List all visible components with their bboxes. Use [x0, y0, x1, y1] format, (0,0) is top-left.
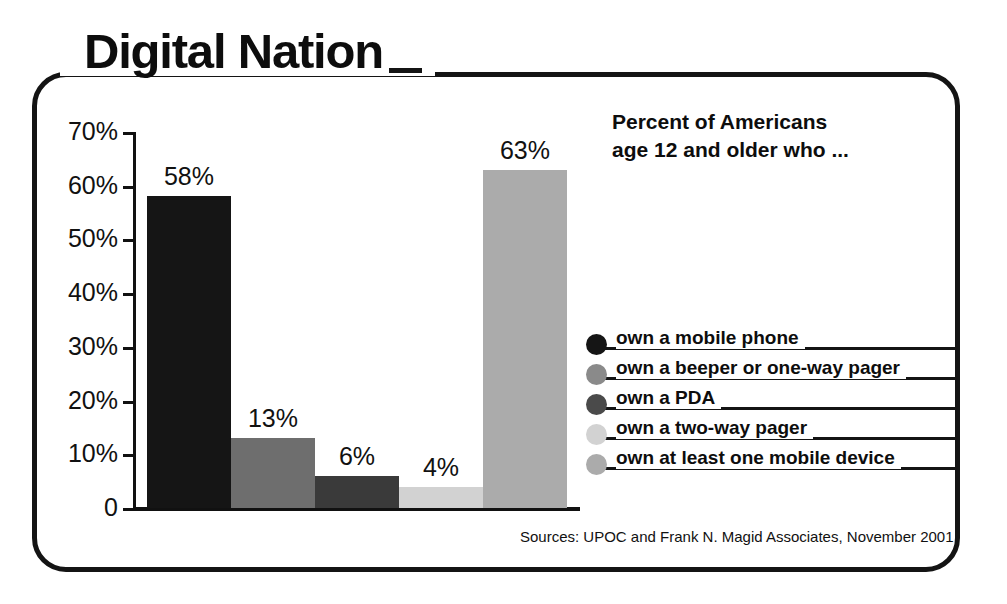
y-tick-mark: [123, 508, 133, 511]
bar-value-label: 4%: [399, 453, 483, 482]
bar-column[interactable]: 63%: [483, 132, 567, 508]
sources-note: Sources: UPOC and Frank N. Magid Associa…: [520, 528, 954, 545]
bar[interactable]: [483, 170, 567, 508]
bar[interactable]: [399, 487, 483, 508]
headline-line-1: Percent of Americans: [612, 108, 942, 136]
chart-legend: own a mobile phoneown a beeper or one-wa…: [586, 326, 956, 476]
bar[interactable]: [315, 476, 399, 508]
y-tick-mark: [123, 132, 133, 135]
page-title-wrap: Digital Nation: [84, 14, 389, 76]
bar-value-label: 13%: [231, 404, 315, 433]
y-tick-label: 50%: [68, 224, 118, 253]
bar-series: 58%13%6%4%63%: [147, 132, 567, 508]
y-tick-mark: [123, 401, 133, 404]
chart-page: Digital Nation Percent of Americans age …: [0, 0, 1007, 604]
bar-value-label: 63%: [483, 136, 567, 165]
legend-marker-icon: [586, 394, 607, 415]
legend-marker-icon: [586, 424, 607, 445]
y-tick-label: 10%: [68, 439, 118, 468]
chart-headline: Percent of Americans age 12 and older wh…: [612, 108, 942, 164]
legend-item[interactable]: own a PDA: [586, 386, 956, 416]
y-tick-label: 20%: [68, 385, 118, 414]
legend-item[interactable]: own a mobile phone: [586, 326, 956, 356]
bar-column[interactable]: 13%: [231, 132, 315, 508]
legend-item[interactable]: own a two-way pager: [586, 416, 956, 446]
y-tick-label: 70%: [68, 117, 118, 146]
legend-item[interactable]: own at least one mobile device: [586, 446, 956, 476]
legend-item[interactable]: own a beeper or one-way pager: [586, 356, 956, 386]
bar[interactable]: [147, 196, 231, 508]
legend-marker-icon: [586, 364, 607, 385]
legend-label: own at least one mobile device: [616, 446, 901, 469]
y-axis-line: [133, 132, 136, 508]
bar-column[interactable]: 6%: [315, 132, 399, 508]
y-tick-mark: [123, 347, 133, 350]
page-title: Digital Nation: [84, 27, 389, 76]
bar-column[interactable]: 58%: [147, 132, 231, 508]
bar[interactable]: [231, 438, 315, 508]
legend-marker-icon: [586, 454, 607, 475]
y-tick-label: 0: [104, 493, 118, 522]
bar-column[interactable]: 4%: [399, 132, 483, 508]
legend-marker-icon: [586, 334, 607, 355]
legend-label: own a two-way pager: [616, 416, 813, 439]
bar-value-label: 6%: [315, 442, 399, 471]
y-tick-mark: [123, 186, 133, 189]
legend-label: own a beeper or one-way pager: [616, 356, 906, 379]
y-tick-label: 60%: [68, 171, 118, 200]
plot-area: 70%60%50%40%30%20%10%0 58%13%6%4%63%: [133, 132, 577, 508]
y-tick-label: 40%: [68, 278, 118, 307]
headline-line-2: age 12 and older who ...: [612, 136, 942, 164]
y-tick-mark: [123, 454, 133, 457]
y-tick-label: 30%: [68, 332, 118, 361]
legend-label: own a PDA: [616, 386, 721, 409]
y-tick-mark: [123, 239, 133, 242]
legend-label: own a mobile phone: [616, 326, 805, 349]
bar-value-label: 58%: [147, 162, 231, 191]
y-tick-mark: [123, 293, 133, 296]
